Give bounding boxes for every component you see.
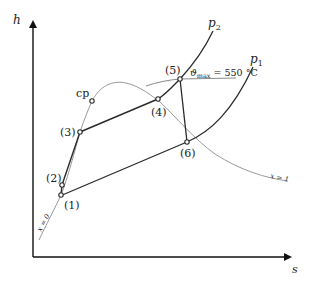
y-axis-label: h [13,13,21,27]
process-3-4 [80,99,158,132]
label-point-6: (6) [180,147,196,160]
point-5 [178,77,182,81]
label-point-3: (3) [60,126,76,139]
label-point-4: (4) [151,106,167,119]
point-6 [185,140,189,144]
label-x1: x = 1 [270,172,290,184]
hs-diagram: h s (1) (2) (3) (4) (5) (6) cp p2 p1 ϑma… [0,0,309,282]
process-2-3 [62,132,80,185]
label-isobar-p1: p1 [250,52,263,68]
point-4 [156,97,160,101]
label-point-5: (5) [165,64,181,77]
saturation-vapor-line [92,82,288,181]
x-axis-label: s [292,263,298,276]
label-point-2: (2) [46,172,62,185]
process-5-6 [180,79,187,142]
point-3 [78,130,82,134]
label-point-1: (1) [64,199,80,212]
isotherm-theta-max [146,78,236,86]
critical-point [90,99,94,103]
label-x0: x = 0 [36,212,52,233]
point-1 [59,193,63,197]
label-critical-point: cp [76,87,89,100]
label-isobar-p2: p2 [208,16,221,32]
